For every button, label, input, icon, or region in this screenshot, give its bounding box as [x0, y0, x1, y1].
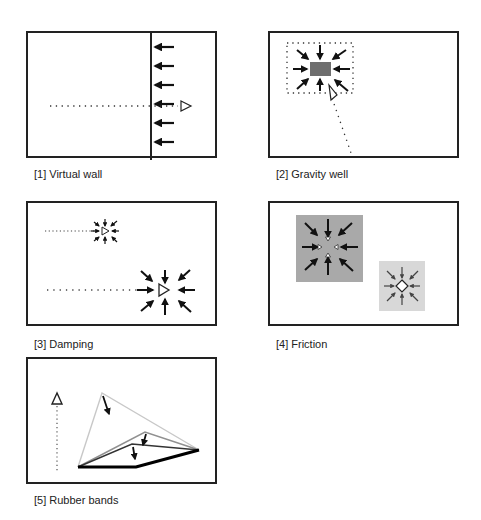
cursor-icon	[52, 393, 62, 404]
panel-virtual-wall	[26, 31, 217, 158]
cursor-path	[332, 98, 351, 153]
caption-1: [1] Virtual wall	[34, 168, 102, 180]
caption-5: [5] Rubber bands	[34, 494, 118, 506]
band-final	[78, 450, 199, 467]
caption-4: [4] Friction	[276, 338, 327, 350]
cursor-icon	[181, 101, 191, 111]
panel-damping	[26, 201, 217, 326]
band-intermediate	[78, 432, 199, 467]
gravity-well-diagram	[270, 33, 461, 160]
rubber-bands-diagram	[28, 359, 219, 486]
panel-rubber-bands	[26, 357, 217, 484]
caption-3: [3] Damping	[34, 338, 93, 350]
panel-friction	[268, 201, 459, 326]
damping-diagram	[28, 203, 219, 328]
virtual-wall-diagram	[28, 33, 219, 160]
slow-cursor-icon	[102, 227, 109, 235]
panel-gravity-well	[268, 31, 459, 158]
gravity-target	[310, 62, 331, 76]
friction-diagram	[270, 203, 461, 328]
caption-2: [2] Gravity well	[276, 168, 348, 180]
fast-cursor-icon	[159, 284, 169, 296]
repelling-arrows	[155, 47, 174, 142]
